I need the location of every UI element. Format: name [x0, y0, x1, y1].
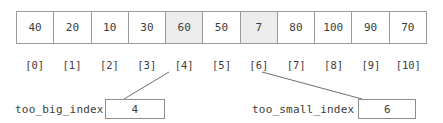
index-label-0: [0]	[16, 57, 53, 73]
index-label-row: [0] [1] [2] [3] [4] [5] [6] [7] [8] [9] …	[16, 57, 427, 73]
index-label-5: [5]	[203, 57, 240, 73]
array-cell-value: 10	[103, 22, 116, 33]
array-cell-value: 7	[255, 22, 262, 33]
array-cell-10: 70	[390, 12, 426, 43]
array-cell-value: 80	[289, 22, 302, 33]
index-label-9: [9]	[352, 57, 389, 73]
array-cell-value: 30	[140, 22, 153, 33]
array-cell-3: 30	[129, 12, 166, 43]
index-label-4: [4]	[165, 57, 202, 73]
index-label-3: [3]	[128, 57, 165, 73]
array-cell-9: 90	[352, 12, 389, 43]
callout-too-big-index: too_big_index 4	[15, 99, 165, 119]
array-cell-value: 50	[215, 22, 228, 33]
index-label-6: [6]	[240, 57, 277, 73]
array-cells: 40 20 10 30 60 50 7 80 100 90 70	[16, 11, 427, 44]
index-label-1: [1]	[53, 57, 90, 73]
index-label-10: [10]	[390, 57, 427, 73]
index-label-8: [8]	[315, 57, 352, 73]
array-cell-8: 100	[315, 12, 352, 43]
array-cell-4: 60	[166, 12, 203, 43]
array-cell-5: 50	[203, 12, 240, 43]
array-cell-value: 100	[323, 22, 343, 33]
array-pointer-diagram: 40 20 10 30 60 50 7 80 100 90 70 [0] [1]…	[0, 0, 443, 123]
array-cell-2: 10	[92, 12, 129, 43]
index-label-2: [2]	[91, 57, 128, 73]
too-big-index-value-box: 4	[105, 99, 165, 119]
callout-too-small-index: too_small_index 6	[252, 99, 416, 119]
array-cell-1: 20	[54, 12, 91, 43]
leader-line-too-big-index	[124, 72, 169, 99]
array-cell-value: 20	[66, 22, 79, 33]
too-small-index-value-box: 6	[358, 99, 416, 119]
leader-line-too-small-index	[262, 72, 362, 99]
array-cell-value: 90	[364, 22, 377, 33]
array-cell-0: 40	[17, 12, 54, 43]
array-cell-value: 40	[29, 22, 42, 33]
too-small-index-label: too_small_index	[252, 104, 354, 115]
too-big-index-label: too_big_index	[15, 104, 104, 115]
array-cell-value: 60	[178, 22, 191, 33]
array-cell-6: 7	[241, 12, 278, 43]
array-cell-value: 70	[401, 22, 414, 33]
array-cell-7: 80	[278, 12, 315, 43]
index-label-7: [7]	[278, 57, 315, 73]
